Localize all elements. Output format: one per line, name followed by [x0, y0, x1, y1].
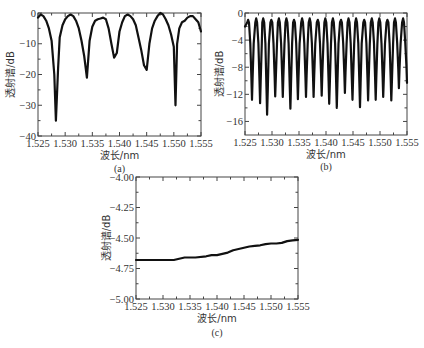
x-tick-label: 1.530 [260, 137, 284, 148]
y-tick-label: −4 [232, 35, 244, 46]
x-tick-label: 1.540 [205, 301, 229, 312]
x-tick-label: 1.545 [341, 137, 365, 148]
x-tick-label: 1.525 [233, 137, 257, 148]
x-tick-label: 1.555 [286, 301, 310, 312]
x-tick-label: 1.550 [259, 301, 283, 312]
y-tick-label: −4.25 [110, 202, 134, 213]
y-tick-label: −12 [227, 89, 243, 100]
x-tick-label: 1.540 [108, 138, 132, 149]
x-axis-title: 波长/nm [306, 148, 345, 160]
panel-label: (c) [211, 327, 222, 339]
x-tick-label: 1.550 [368, 137, 392, 148]
y-tick-label: −5.00 [110, 294, 134, 305]
y-tick-label: −4.50 [110, 233, 134, 244]
chart-panel-b: 1.5251.5301.5351.5401.5451.5501.5550−4−8… [213, 8, 419, 174]
x-tick-label: 1.530 [53, 138, 77, 149]
y-axis-title: 透射谱/dB [4, 51, 16, 98]
transmission-curve [245, 18, 407, 114]
figure-canvas: 1.5251.5301.5351.5401.5451.5501.5550−10−… [0, 0, 424, 348]
x-tick-label: 1.535 [178, 301, 202, 312]
chart-panel-c: 1.5251.5301.5351.5401.5451.5501.555−4.00… [100, 172, 310, 340]
x-tick-label: 1.550 [162, 138, 186, 149]
x-tick-label: 1.540 [314, 137, 338, 148]
y-tick-label: −16 [227, 116, 243, 127]
x-tick-label: 1.530 [151, 301, 175, 312]
y-axis-title: 透射谱/dB [213, 51, 225, 98]
x-tick-label: 1.545 [135, 138, 159, 149]
x-tick-label: 1.535 [287, 137, 311, 148]
y-tick-label: −8 [232, 62, 243, 73]
transmission-curve [136, 240, 298, 260]
y-tick-label: 0 [238, 8, 243, 19]
x-tick-label: 1.555 [189, 138, 213, 149]
panel-label: (b) [320, 161, 332, 173]
transmission-curve [38, 13, 201, 121]
chart-panel-a: 1.5251.5301.5351.5401.5451.5501.5550−10−… [4, 8, 213, 176]
x-tick-label: 1.545 [232, 301, 256, 312]
x-tick-label: 1.535 [81, 138, 105, 149]
y-axis-title: 透射谱/dB [100, 215, 112, 262]
x-tick-label: 1.555 [395, 137, 419, 148]
plot-frame [136, 177, 298, 299]
y-tick-label: −40 [20, 131, 36, 142]
y-tick-label: 0 [31, 8, 36, 19]
y-tick-label: −10 [20, 38, 36, 49]
x-axis-title: 波长/nm [100, 149, 139, 161]
y-tick-label: −20 [20, 69, 36, 80]
x-axis-title: 波长/nm [197, 312, 236, 324]
y-tick-label: −4.00 [110, 172, 134, 183]
y-tick-label: −4.75 [110, 263, 134, 274]
y-tick-label: −30 [20, 100, 36, 111]
